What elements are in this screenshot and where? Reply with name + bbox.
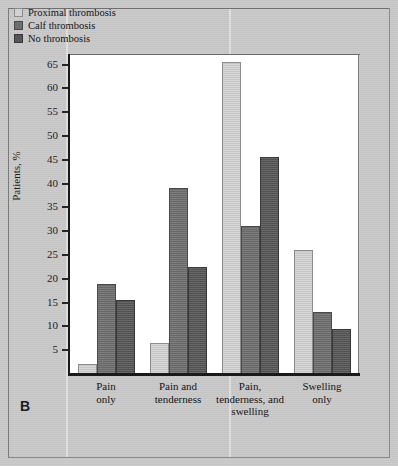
panel-border-right: [389, 8, 390, 458]
y-tick-label: 40: [32, 178, 58, 189]
legend-label: No thrombosis: [28, 33, 90, 44]
bar: [241, 226, 260, 374]
y-axis-title: Patients, %: [10, 116, 22, 236]
bar: [188, 267, 207, 374]
legend-label: Proximal thrombosis: [28, 7, 116, 18]
y-tick-label: 35: [32, 201, 58, 212]
y-tick-label: 5: [32, 344, 58, 355]
legend-swatch-icon: [14, 21, 23, 30]
bar: [222, 62, 241, 374]
bars-layer: [70, 55, 358, 374]
legend-swatch-icon: [14, 34, 23, 43]
legend-item: Calf thrombosis: [14, 20, 154, 31]
legend-item: Proximal thrombosis: [14, 7, 154, 18]
x-category-label-line: only: [262, 393, 382, 406]
y-tick-label: 25: [32, 249, 58, 260]
bar: [332, 329, 351, 374]
legend-swatch-icon: [14, 8, 23, 17]
y-tick-label: 55: [32, 106, 58, 117]
y-tick-label: 30: [32, 225, 58, 236]
y-tick-label: 45: [32, 154, 58, 165]
y-tick-label: 10: [32, 320, 58, 331]
x-axis-line: [68, 373, 360, 376]
y-tick-label: 20: [32, 273, 58, 284]
x-axis-category-labels: PainonlyPain andtendernessPain,tendernes…: [70, 380, 358, 440]
y-tick-label: 50: [32, 130, 58, 141]
y-tick-label: 60: [32, 82, 58, 93]
x-category-label-line: Swelling: [262, 380, 382, 393]
x-category-label: Swellingonly: [262, 380, 382, 405]
legend-item: No thrombosis: [14, 33, 154, 44]
bar: [97, 284, 116, 374]
y-tick-label: 15: [32, 297, 58, 308]
figure-panel: B Patients, % 5101520253035404550556065 …: [0, 0, 398, 466]
bar: [260, 157, 279, 374]
chart-legend: Proximal thrombosisCalf thrombosisNo thr…: [14, 7, 154, 46]
x-category-label-line: swelling: [190, 405, 310, 418]
bar: [294, 250, 313, 374]
plot-right-edge: [358, 54, 359, 374]
bar: [169, 188, 188, 374]
bar: [116, 300, 135, 374]
bar: [313, 312, 332, 374]
bar: [150, 343, 169, 374]
y-tick-label: 65: [32, 59, 58, 70]
legend-label: Calf thrombosis: [28, 20, 95, 31]
